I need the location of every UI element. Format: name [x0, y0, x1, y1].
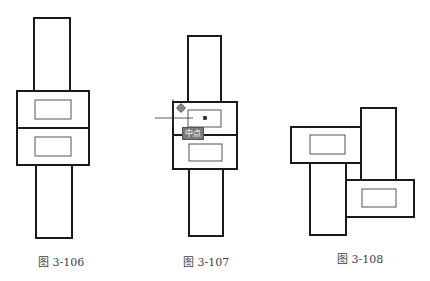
inner-rect-lower: [189, 144, 222, 161]
rect-left-vertical: [310, 163, 346, 235]
rect-right-vertical: [361, 108, 396, 181]
caption-fig-3-108: 图 3-108: [337, 250, 383, 266]
bottom-bar: [36, 165, 72, 238]
inner-rect-upper: [35, 100, 71, 119]
figure-3-106: [17, 18, 89, 238]
caption-fig-3-107: 图 3-107: [183, 253, 229, 269]
caption-fig-3-106: 图 3-106: [38, 253, 84, 269]
inner-rect-left: [310, 135, 345, 154]
figure-3-108: [291, 108, 414, 235]
inner-rect-lower: [35, 137, 71, 156]
midpoint-tooltip: 中点: [182, 127, 204, 140]
diagram-canvas: [0, 0, 430, 281]
top-bar: [188, 36, 221, 102]
top-bar: [34, 18, 70, 91]
midpoint-marker-icon: [204, 117, 207, 120]
inner-rect-bottom: [362, 189, 396, 207]
bottom-bar: [189, 169, 223, 236]
